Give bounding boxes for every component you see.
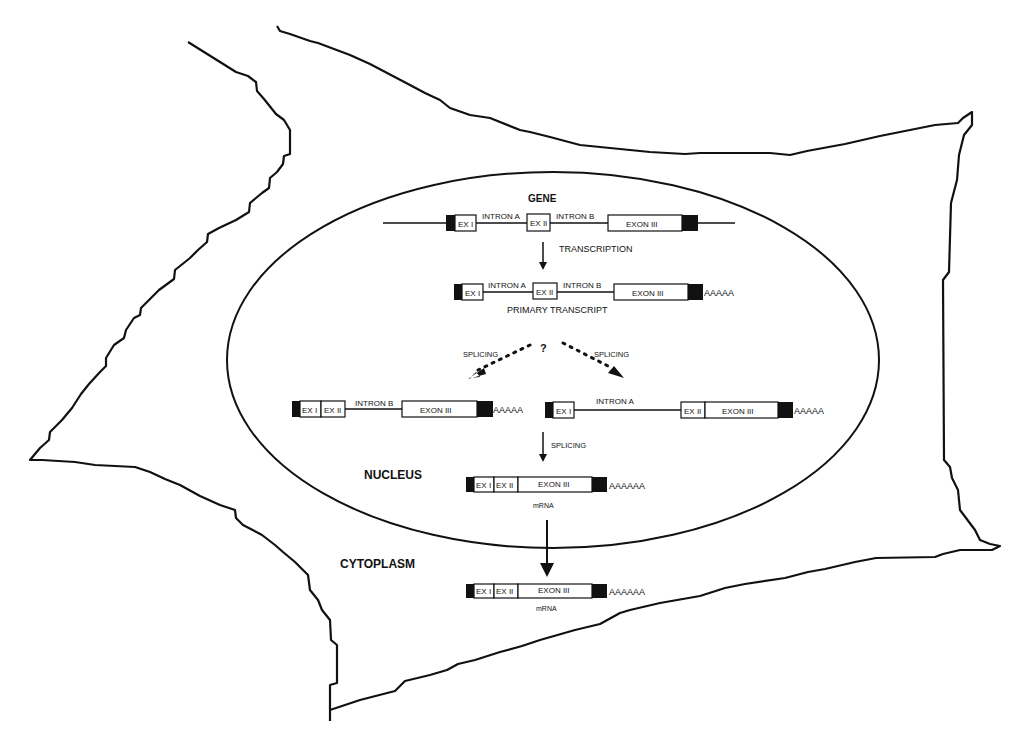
svg-text:EX I: EX I [556,407,571,416]
mrna-nucleus-row: EX I EX II EXON III AAAAAA mRNA [466,477,645,509]
svg-text:EXON III: EXON III [538,586,570,595]
svg-text:EX I: EX I [476,481,491,490]
splicing-right-label: SPLICING [594,350,629,359]
intermediate-left-row: EX I EX II INTRON B EXON III AAAAA [292,399,523,417]
gene-title: GENE [528,193,557,204]
svg-text:AAAAA: AAAAA [794,406,824,416]
gene-splicing-diagram: NUCLEUS CYTOPLASM GENE EX I INTRON A EX … [0,0,1028,743]
intermediate-right-row: EX I INTRON A EX II EXON III AAAAA [545,397,824,418]
nucleus-label: NUCLEUS [364,468,422,482]
transcription-label: TRANSCRIPTION [559,244,633,254]
svg-text:INTRON B: INTRON B [563,281,601,290]
gene-intron-a-label: INTRON A [482,212,520,221]
svg-text:EXON III: EXON III [632,289,664,298]
svg-text:INTRON A: INTRON A [596,397,634,406]
svg-text:AAAAAA: AAAAAA [609,481,645,491]
gene-intron-b-label: INTRON B [556,212,594,221]
gene-row: GENE EX I INTRON A EX II INTRON B EXON I… [383,193,735,231]
mrna-nucleus-label: mRNA [533,502,554,509]
svg-text:EX I: EX I [476,587,491,596]
svg-text:EX II: EX II [496,587,513,596]
splicing-down-label: SPLICING [551,441,586,450]
svg-text:EX II: EX II [530,219,547,228]
cytoplasm-label: CYTOPLASM [340,557,415,571]
cell-membrane [30,26,1000,721]
primary-transcript-row: EX I INTRON A EX II INTRON B EXON III AA… [454,281,734,315]
svg-text:EX II: EX II [684,407,701,416]
svg-text:EX I: EX I [458,220,473,229]
svg-text:AAAAAA: AAAAAA [609,587,645,597]
svg-text:AAAAA: AAAAA [493,405,523,415]
mrna-cytoplasm-row: EX I EX II EXON III AAAAAA mRNA [466,584,645,612]
mrna-cytoplasm-label: mRNA [536,605,557,612]
splicing-left-label: SPLICING [463,350,498,359]
polya-tail: AAAAA [704,288,734,298]
svg-text:INTRON B: INTRON B [355,399,393,408]
question-mark: ? [540,342,547,354]
svg-text:INTRON A: INTRON A [488,281,526,290]
svg-text:EX I: EX I [465,289,480,298]
svg-text:EX II: EX II [496,481,513,490]
svg-text:EXON III: EXON III [538,480,570,489]
svg-text:EX II: EX II [536,288,553,297]
svg-text:EX I: EX I [302,406,317,415]
primary-transcript-label: PRIMARY TRANSCRIPT [507,305,608,315]
svg-text:EXON III: EXON III [722,407,754,416]
svg-text:EXON III: EXON III [626,220,658,229]
svg-text:EX II: EX II [324,406,341,415]
svg-text:EXON III: EXON III [420,406,452,415]
